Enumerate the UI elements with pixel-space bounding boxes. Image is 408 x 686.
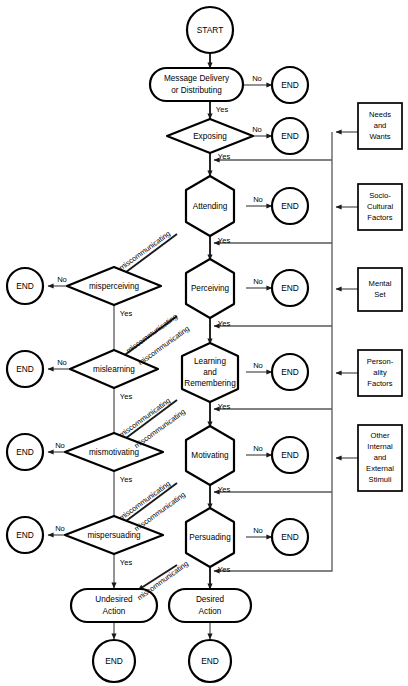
edge-label-no-exposing: No	[252, 125, 262, 134]
node-attending-label: Attending	[193, 202, 228, 211]
edge-label-yes-learning: Yes	[218, 402, 231, 411]
side-box-personality-line1: Person-	[367, 357, 394, 366]
node-message-delivery[interactable]	[150, 68, 243, 101]
edge-label-no-attending: No	[253, 195, 263, 204]
side-box-mental-line2: Set	[374, 290, 386, 299]
edge-label-yes-persuading: Yes	[218, 565, 231, 574]
end-label-7: END	[281, 532, 299, 542]
edge-label-yes-mismotivating: Yes	[120, 475, 133, 484]
node-misperceiving-label: misperceiving	[89, 282, 139, 291]
node-persuading-label: Persuading	[189, 533, 231, 542]
node-desired-line2: Action	[199, 607, 222, 616]
side-box-needs-wants-line2: and	[374, 121, 387, 130]
node-message-line2: or Distributing	[171, 86, 222, 95]
end-label-b1: END	[105, 656, 123, 666]
end-label-b2: END	[201, 656, 219, 666]
edge-label-miscommunicating-1: miscommunicating	[117, 229, 172, 272]
edge-label-no-mispersuading: No	[55, 524, 65, 533]
node-learning-line2: and	[203, 368, 217, 377]
edge-label-yes-message: Yes	[216, 105, 229, 114]
edge-label-no-perceiving: No	[253, 277, 263, 286]
side-box-personality-line2: ality	[373, 368, 387, 377]
edge-label-no-learning: No	[253, 361, 263, 370]
end-label-5: END	[281, 367, 299, 377]
side-box-other-line1: Other	[371, 431, 390, 440]
side-box-socio-line3: Factors	[367, 213, 393, 222]
node-undesired-line2: Action	[103, 607, 126, 616]
flowchart-canvas: START Message Delivery or Distributing E…	[0, 0, 408, 686]
edge-label-no-persuading: No	[253, 526, 263, 535]
node-perceiving-label: Perceiving	[191, 284, 230, 293]
edge-label-no-mismotivating: No	[55, 441, 65, 450]
side-box-personality-line3: Factors	[367, 379, 393, 388]
side-box-other-line3: and	[374, 453, 387, 462]
edge-label-no-misperceiving: No	[57, 275, 67, 284]
node-motivating-label: Motivating	[191, 451, 229, 460]
end-label-l3: END	[16, 447, 34, 457]
node-desired-line1: Desired	[196, 595, 225, 604]
node-learning-line3: Remembering	[184, 379, 236, 388]
end-label-l2: END	[16, 364, 34, 374]
edge-label-yes-perceiving: Yes	[218, 319, 231, 328]
node-learning-line1: Learning	[194, 357, 226, 366]
edge-label-yes-attending: Yes	[218, 236, 231, 245]
edge-label-yes-motivating: Yes	[218, 485, 231, 494]
edge-label-yes-exposing: Yes	[218, 152, 231, 161]
side-box-needs-wants-line1: Needs	[369, 110, 391, 119]
flowchart-svg: START Message Delivery or Distributing E…	[0, 0, 408, 686]
end-label-6: END	[281, 450, 299, 460]
node-undesired-line1: Undesired	[95, 595, 133, 604]
side-box-other-line4: External	[366, 464, 394, 473]
edge-label-yes-mispersuading: Yes	[120, 558, 133, 567]
side-box-other-line2: Internal	[367, 442, 393, 451]
node-exposing-label: Exposing	[193, 132, 227, 141]
node-mislearning-label: mislearning	[93, 365, 135, 374]
side-box-socio-line1: Socio-	[369, 191, 391, 200]
node-message-line1: Message Delivery	[164, 74, 230, 83]
side-box-other-line5: Stimuli	[369, 475, 392, 484]
edge-label-yes-mislearning: Yes	[120, 392, 133, 401]
node-mispersuading-label: mispersuading	[87, 531, 141, 540]
end-label-l4: END	[16, 530, 34, 540]
end-label-2: END	[281, 131, 299, 141]
edge-label-no-message: No	[252, 74, 262, 83]
end-label-4: END	[281, 283, 299, 293]
end-label-1: END	[281, 80, 299, 90]
node-start-label: START	[197, 25, 224, 35]
edge-label-no-motivating: No	[253, 444, 263, 453]
node-mismotivating-label: mismotivating	[89, 448, 139, 457]
end-label-l1: END	[16, 281, 34, 291]
node-desired-action[interactable]	[169, 589, 251, 622]
edge-label-no-mislearning: No	[57, 358, 67, 367]
side-box-needs-wants-line3: Wants	[369, 132, 390, 141]
side-box-mental-line1: Mental	[369, 279, 392, 288]
side-box-socio-line2: Cultural	[367, 202, 393, 211]
edge-label-yes-misperceiving: Yes	[120, 309, 133, 318]
end-label-3: END	[281, 201, 299, 211]
